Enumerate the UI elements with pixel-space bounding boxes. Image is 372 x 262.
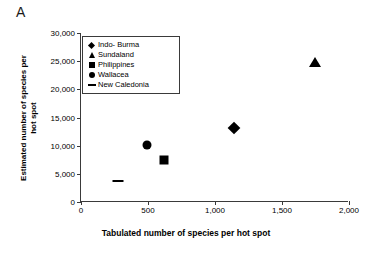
dash-glyph — [88, 84, 96, 86]
data-point-square — [160, 155, 169, 164]
triangle-glyph — [89, 52, 95, 58]
diamond-glyph — [88, 41, 95, 48]
x-axis-tick-label: 500 — [141, 206, 154, 215]
y-axis-tick — [77, 89, 81, 90]
x-axis-tick — [349, 201, 350, 205]
legend-item: Indo- Burma — [87, 40, 176, 50]
legend-item: New Caledonia — [87, 80, 176, 90]
y-axis-tick — [77, 33, 81, 34]
circle-glyph — [89, 72, 95, 78]
y-axis-tick — [77, 146, 81, 147]
x-axis-tick-label: 2,000 — [339, 206, 359, 215]
y-axis-tick-label: 15,000 — [51, 113, 75, 122]
legend-item: Philippines — [87, 60, 176, 70]
y-axis-tick-label: 5,000 — [55, 169, 75, 178]
y-axis-tick-label: 10,000 — [51, 141, 75, 150]
legend-item: Sundaland — [87, 50, 176, 60]
x-axis-tick-label: 1,500 — [272, 206, 292, 215]
legend-marker-diamond-icon — [87, 43, 96, 48]
y-axis-title-line1: Estimated number of species per — [19, 55, 29, 181]
legend-item-label: Indo- Burma — [98, 40, 139, 50]
x-axis-tick — [148, 201, 149, 205]
figure-panel-a: A Estimated number of species per hot sp… — [0, 0, 372, 262]
legend-item-label: Sundaland — [98, 50, 134, 60]
legend-item: Wallacea — [87, 70, 176, 80]
x-axis-tick-label: 1,000 — [205, 206, 225, 215]
square-glyph — [89, 62, 95, 68]
data-point-diamond — [227, 121, 240, 134]
x-axis-title: Tabulated number of species per hot spot — [0, 228, 372, 238]
y-axis-tick — [77, 61, 81, 62]
data-point-triangle — [309, 57, 321, 67]
y-axis-title: Estimated number of species per hot spot — [16, 33, 42, 202]
y-axis-tick — [77, 118, 81, 119]
x-axis-tick — [215, 201, 216, 205]
y-axis-tick-label: 20,000 — [51, 85, 75, 94]
y-axis-tick-label: 30,000 — [51, 29, 75, 38]
legend-item-label: New Caledonia — [98, 80, 149, 90]
y-axis-tick — [77, 174, 81, 175]
y-axis-tick-label: 0 — [71, 198, 75, 207]
x-axis-tick-label: 0 — [79, 206, 83, 215]
x-axis-tick — [81, 201, 82, 205]
y-axis-title-line2: hot spot — [29, 55, 39, 181]
legend-item-label: Wallacea — [98, 70, 129, 80]
data-point-circle — [143, 140, 152, 149]
legend-marker-square-icon — [87, 62, 96, 68]
panel-label: A — [16, 4, 25, 20]
legend-marker-circle-icon — [87, 72, 96, 78]
legend-marker-triangle-icon — [87, 52, 96, 58]
chart-legend: Indo- BurmaSundalandPhilippinesWallaceaN… — [82, 36, 180, 94]
legend-item-label: Philippines — [98, 60, 134, 70]
x-axis-tick — [282, 201, 283, 205]
data-point-dash — [112, 180, 123, 182]
y-axis-tick-label: 25,000 — [51, 57, 75, 66]
legend-marker-dash-icon — [87, 84, 96, 86]
